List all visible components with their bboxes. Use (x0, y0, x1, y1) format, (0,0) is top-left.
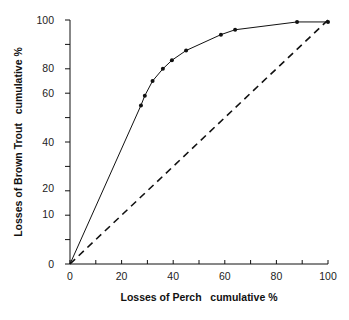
data-point-marker (170, 58, 174, 62)
y-tick-label: 20 (42, 182, 54, 194)
x-tick-label: 20 (116, 270, 128, 282)
x-tick-label: 40 (167, 270, 179, 282)
y-tick-label: 60 (42, 87, 54, 99)
x-tick-label: 100 (319, 270, 337, 282)
cumulative-losses-chart: 020406080100 01020406080100 Losses of Pe… (0, 0, 349, 320)
data-point-marker (184, 49, 188, 53)
y-axis-title: Losses of Brown Trout cumulative % (12, 47, 24, 237)
y-tick-labels: 01020406080100 (36, 14, 54, 270)
y-tick-label: 40 (42, 136, 54, 148)
data-point-marker (143, 94, 147, 98)
series-layer (70, 20, 330, 264)
data-point-marker (139, 103, 143, 107)
x-tick-label: 0 (67, 270, 73, 282)
y-tick-label: 10 (42, 208, 54, 220)
data-point-marker (151, 79, 155, 83)
reference-diagonal-line (70, 20, 328, 264)
x-tick-labels: 020406080100 (67, 270, 337, 282)
data-point-marker (295, 20, 299, 24)
data-point-marker (219, 33, 223, 37)
y-tick-label: 100 (36, 14, 54, 26)
y-tick-label: 80 (42, 62, 54, 74)
x-ticks (70, 260, 328, 264)
x-axis-title: Losses of Perch cumulative % (121, 291, 279, 303)
data-point-marker (233, 28, 237, 32)
data-point-marker (161, 67, 165, 71)
x-tick-label: 60 (219, 270, 231, 282)
x-tick-label: 80 (271, 270, 283, 282)
y-ticks (65, 20, 70, 264)
y-tick-label: 0 (48, 258, 54, 270)
